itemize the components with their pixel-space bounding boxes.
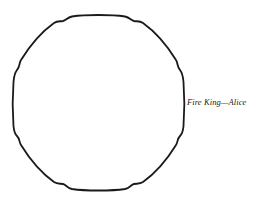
plate-outline-shape bbox=[13, 15, 185, 191]
pattern-label: Fire King—Alice bbox=[187, 97, 247, 107]
